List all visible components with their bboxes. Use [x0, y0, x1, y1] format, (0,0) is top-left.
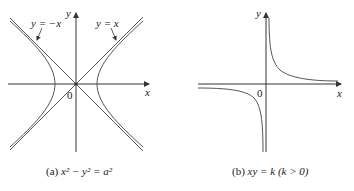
origin-label: 0 — [257, 87, 263, 99]
panel-b-rect-hyperbola: y x 0 (b) xy = k (k > 0) — [198, 7, 342, 178]
origin-dot — [74, 82, 77, 85]
branch-lower-left — [198, 88, 263, 152]
figure-canvas: y = −x y = x y x 0 (a) x² − y² = a² y x … — [0, 0, 354, 191]
x-axis-label: x — [144, 86, 150, 98]
pointer-pos — [111, 28, 116, 40]
panel-a-hyperbola: y = −x y = x y x 0 (a) x² − y² = a² — [8, 7, 150, 178]
caption-b: (b) xy = k (k > 0) — [232, 165, 309, 178]
label-y-neg-x: y = −x — [30, 17, 61, 29]
x-axis-label: x — [336, 87, 342, 99]
branch-upper-right — [269, 18, 338, 81]
y-axis-label: y — [255, 7, 261, 19]
caption-a: (a) x² − y² = a² — [46, 165, 113, 178]
origin-label: 0 — [67, 89, 73, 101]
y-axis-label: y — [65, 7, 71, 19]
pointer-neg — [37, 28, 42, 40]
label-y-eq-x: y = x — [95, 17, 119, 29]
